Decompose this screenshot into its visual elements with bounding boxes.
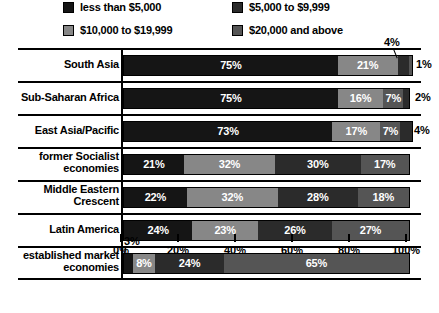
- chart-row-east-asia-pacific: East Asia/Pacific 73% 17% 7% 4% 4%: [0, 114, 439, 147]
- bar-segment-label: 7%: [383, 126, 399, 137]
- bar-segment: 17%: [361, 155, 409, 174]
- row-label-sub-saharan-africa: Sub-Saharan Africa: [0, 91, 119, 103]
- bar-segment-label: 32%: [222, 192, 243, 203]
- bar-segment-label: 75%: [220, 93, 241, 104]
- row-label-former-socialist-economies: former Socialist economies: [0, 150, 119, 174]
- x-axis-tick-label: 100%: [392, 245, 420, 256]
- legend-item-5000-to-9999: $5,000 to $9,999: [232, 2, 330, 13]
- stacked-bar-chart: less than $5,000 $5,000 to $9,999 $10,00…: [0, 0, 439, 313]
- callout-label-4-percent: 4%: [384, 37, 400, 48]
- bar-segment: 21%: [124, 155, 184, 174]
- x-axis-tick-label: 20%: [167, 245, 189, 256]
- chart-row-south-asia: South Asia 75% 21% 4% 1% 1%: [0, 48, 439, 81]
- x-axis-tick-label: 40%: [224, 245, 246, 256]
- bar-segment: 16%: [338, 89, 384, 108]
- stacked-bar-south-asia: 75% 21% 4% 1%: [123, 55, 413, 76]
- x-axis-tick: [234, 234, 236, 242]
- bar-segment-label: 73%: [217, 126, 238, 137]
- x-axis: 0% 20% 40% 60% 80% 100%: [0, 234, 439, 267]
- bar-segment-label: 28%: [307, 192, 328, 203]
- bar-segment-label: 16%: [350, 93, 371, 104]
- legend-swatch-icon-less-than-5000: [63, 2, 74, 13]
- x-axis-tick: [405, 234, 407, 242]
- bar-segment-label: 18%: [373, 192, 394, 203]
- bar-segment: 4%: [400, 122, 411, 141]
- bar-segment-label: 21%: [357, 60, 378, 71]
- bar-segment-label: 22%: [145, 192, 166, 203]
- bar-segment-label: 17%: [374, 159, 395, 170]
- bar-segment: 32%: [184, 155, 275, 174]
- legend-swatch-icon-10000-to-19999: [63, 25, 74, 36]
- bar-segment: 4%: [398, 56, 409, 75]
- x-axis-tick: [348, 234, 350, 242]
- bar-segment: 7%: [380, 122, 400, 141]
- bar-segment: 1%: [409, 56, 412, 75]
- legend-label-10000-to-19999: $10,000 to $19,999: [80, 25, 172, 36]
- bar-outside-label: 4%: [414, 125, 430, 136]
- bar-segment: 21%: [338, 56, 398, 75]
- bar-outside-label: 2%: [415, 92, 431, 103]
- x-axis-tick: [177, 234, 179, 242]
- legend-swatch-icon-20000-and-above: [232, 25, 243, 36]
- bar-segment: 73%: [124, 122, 332, 141]
- bar-segment: 75%: [124, 89, 338, 108]
- bar-segment: 17%: [332, 122, 380, 141]
- bar-segment-label: 30%: [307, 159, 328, 170]
- bar-segment: 30%: [275, 155, 361, 174]
- chart-row-middle-eastern-crescent: Middle Eastern Crescent 22% 32% 28% 18%: [0, 180, 439, 213]
- bar-outside-label: 1%: [416, 59, 432, 70]
- legend-item-10000-to-19999: $10,000 to $19,999: [63, 25, 172, 36]
- bar-segment-label: 75%: [220, 60, 241, 71]
- legend-label-less-than-5000: less than $5,000: [80, 2, 161, 13]
- bar-segment-label: 21%: [143, 159, 164, 170]
- stacked-bar-middle-eastern-crescent: 22% 32% 28% 18%: [123, 187, 410, 208]
- legend-label-5000-to-9999: $5,000 to $9,999: [249, 2, 330, 13]
- bar-segment: 32%: [187, 188, 278, 207]
- bar-segment-label: 17%: [346, 126, 367, 137]
- x-axis-tick-label: 0%: [113, 245, 129, 256]
- row-label-south-asia: South Asia: [0, 58, 119, 70]
- row-label-east-asia-pacific: East Asia/Pacific: [0, 124, 119, 136]
- chart-row-former-socialist-economies: former Socialist economies 21% 32% 30% 1…: [0, 147, 439, 180]
- bar-segment: 2%: [403, 89, 409, 108]
- legend-item-20000-and-above: $20,000 and above: [232, 25, 343, 36]
- x-axis-tick: [291, 234, 293, 242]
- stacked-bar-sub-saharan-africa: 75% 16% 7% 2%: [123, 88, 410, 109]
- bar-segment: 7%: [383, 89, 403, 108]
- bar-segment: 75%: [124, 56, 338, 75]
- callout-rule-extension: [18, 48, 421, 50]
- x-axis-tick: [120, 234, 122, 242]
- legend-label-20000-and-above: $20,000 and above: [249, 25, 343, 36]
- bar-segment: 28%: [278, 188, 358, 207]
- row-label-middle-eastern-crescent: Middle Eastern Crescent: [0, 183, 119, 207]
- chart-legend: less than $5,000 $5,000 to $9,999 $10,00…: [0, 0, 439, 46]
- chart-row-sub-saharan-africa: Sub-Saharan Africa 75% 16% 7% 2% 2%: [0, 81, 439, 114]
- stacked-bar-east-asia-pacific: 73% 17% 7% 4%: [123, 121, 413, 142]
- legend-swatch-icon-5000-to-9999: [232, 2, 243, 13]
- bar-segment: 18%: [358, 188, 409, 207]
- plot-area: South Asia 75% 21% 4% 1% 1% 4%: [0, 46, 439, 313]
- x-axis-tick-label: 60%: [281, 245, 303, 256]
- bar-segment: 22%: [124, 188, 187, 207]
- legend-item-less-than-5000: less than $5,000: [63, 2, 161, 13]
- x-axis-tick-label: 80%: [338, 245, 360, 256]
- bar-segment-label: 32%: [219, 159, 240, 170]
- bar-segment-label: 7%: [386, 93, 402, 104]
- stacked-bar-former-socialist-economies: 21% 32% 30% 17%: [123, 154, 410, 175]
